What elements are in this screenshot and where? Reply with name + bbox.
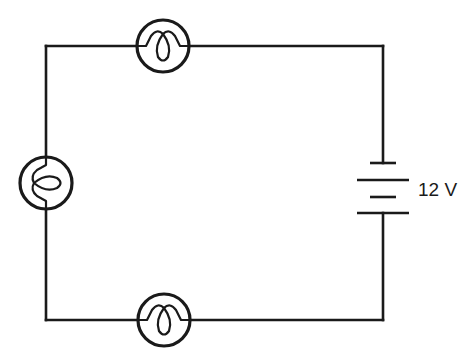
lamp-left bbox=[20, 157, 72, 209]
battery-voltage-label: 12 V bbox=[418, 179, 457, 200]
lamp-top bbox=[137, 20, 189, 72]
lamp-bottom bbox=[138, 294, 190, 346]
wires bbox=[46, 46, 383, 320]
battery: 12 V bbox=[357, 163, 457, 213]
circuit-diagram: 12 V bbox=[0, 0, 471, 357]
